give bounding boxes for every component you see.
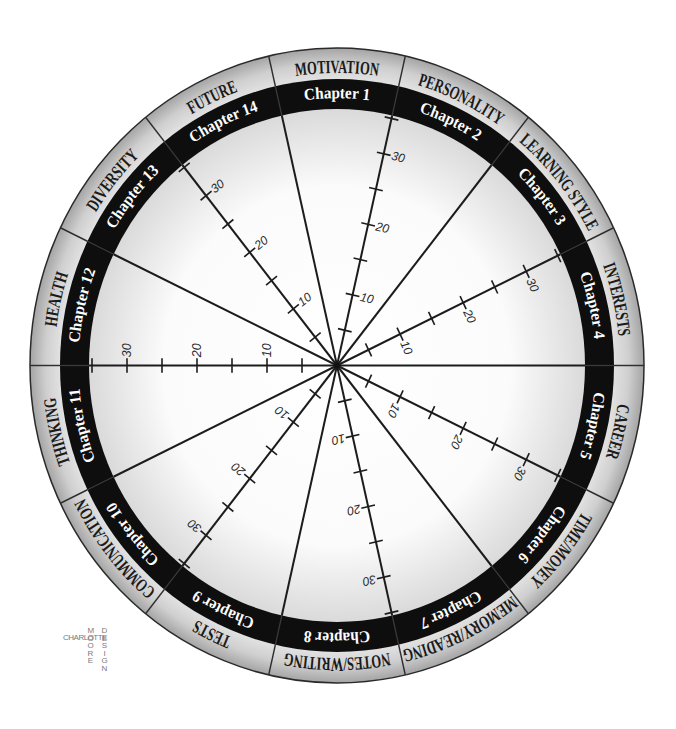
center-hub bbox=[334, 362, 340, 368]
scale-label: 10 bbox=[260, 343, 274, 357]
logo-design: DESIGN bbox=[102, 627, 108, 672]
scale-label: 20 bbox=[190, 343, 204, 358]
chapter-wheel-diagram: 1020301020301020301020301020301020301020… bbox=[0, 0, 676, 729]
segment-chapter-label: Chapter 1 bbox=[303, 84, 371, 104]
topic-text: MOTIVATION bbox=[294, 57, 380, 80]
wheel-chart: 1020301020301020301020301020301020301020… bbox=[0, 0, 676, 729]
segment-topic-label: MOTIVATION bbox=[294, 57, 380, 80]
wheel: 1020301020301020301020301020301020301020… bbox=[30, 48, 644, 683]
segment-chapter-label: Chapter 8 bbox=[303, 627, 371, 647]
chapter-text: Chapter 1 bbox=[303, 84, 371, 104]
scale-label: 30 bbox=[120, 343, 134, 357]
logo-moore: MOORE bbox=[88, 627, 94, 665]
chapter-text: Chapter 8 bbox=[303, 627, 371, 647]
logo-charlotte: CHARLOTTE bbox=[63, 634, 107, 642]
